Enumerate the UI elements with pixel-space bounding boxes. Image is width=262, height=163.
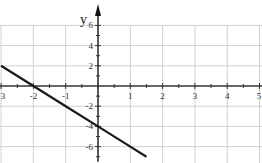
y-axis-label: y: [80, 12, 87, 27]
x-tick-label: 5: [257, 91, 262, 101]
x-tick-label: 2: [160, 91, 165, 101]
line-chart: 3-2-112345-6-4-2246 y: [0, 0, 262, 163]
x-tick-label: -2: [30, 91, 38, 101]
axes: [0, 4, 262, 162]
series-line: [1, 66, 146, 157]
data-series: [1, 66, 146, 157]
x-tick-label: 3: [193, 91, 198, 101]
y-axis-arrow-icon: [95, 4, 101, 16]
x-tick-label: -1: [62, 91, 70, 101]
y-tick-label: 4: [89, 41, 94, 51]
y-tick-label: 2: [89, 61, 94, 71]
x-tick-label: 3: [1, 91, 6, 101]
y-tick-label: 6: [89, 20, 94, 30]
x-tick-label: 1: [128, 91, 133, 101]
y-tick-label: -6: [86, 142, 94, 152]
x-tick-label: 4: [225, 91, 230, 101]
y-tick-label: -2: [86, 101, 94, 111]
